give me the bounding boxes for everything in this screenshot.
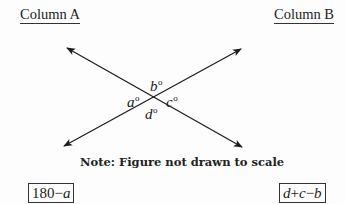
figure-note: Note: Figure not drawn to scale xyxy=(80,155,284,169)
column-b-quantity: d+c−b xyxy=(279,183,326,203)
angle-d-label: do xyxy=(145,103,158,122)
angle-a-label: ao xyxy=(127,91,140,110)
angle-c-label: co xyxy=(166,91,178,110)
column-a-quantity: 180−a xyxy=(28,183,74,203)
angle-b-label: bo xyxy=(150,75,163,94)
